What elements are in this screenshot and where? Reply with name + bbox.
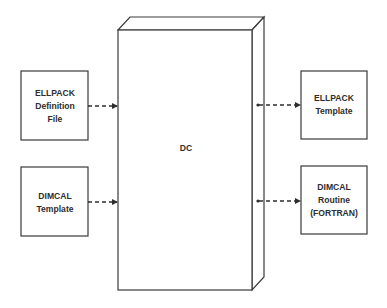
output-label-line: ELLPACK bbox=[314, 93, 355, 103]
input-box bbox=[21, 167, 88, 236]
output-dimcal-routine: DIMCAL Routine (FORTRAN) bbox=[301, 166, 367, 234]
output-box bbox=[301, 71, 367, 139]
diagram-canvas: DC ELLPACK Definition File DIMCAL Templa… bbox=[0, 0, 387, 308]
input-dimcal-template: DIMCAL Template bbox=[21, 167, 88, 236]
dc-label: DC bbox=[180, 143, 192, 153]
output-ellpack-template: ELLPACK Template bbox=[301, 71, 367, 139]
dc-block: DC bbox=[118, 17, 264, 290]
input-label-line: Template bbox=[36, 204, 73, 214]
dc-block-top-face bbox=[118, 17, 264, 30]
output-label-line: (FORTRAN) bbox=[310, 208, 358, 218]
output-label-line: Template bbox=[315, 106, 352, 116]
input-ellpack-definition-file: ELLPACK Definition File bbox=[21, 71, 88, 140]
input-label-line: File bbox=[48, 114, 63, 124]
input-label-line: ELLPACK bbox=[35, 88, 76, 98]
input-label-line: DIMCAL bbox=[38, 191, 71, 201]
dc-block-side-face bbox=[252, 17, 264, 290]
output-label-line: DIMCAL bbox=[317, 182, 350, 192]
dc-block-front-face bbox=[118, 30, 252, 290]
input-label-line: Definition bbox=[35, 101, 75, 111]
output-label-line: Routine bbox=[318, 195, 350, 205]
